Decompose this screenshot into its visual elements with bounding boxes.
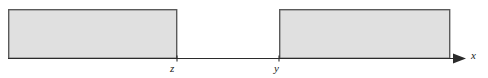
tick-label-z: z xyxy=(170,63,174,74)
math-figure: z y x xyxy=(0,0,488,78)
figure-canvas xyxy=(0,0,488,78)
axis-label-x: x xyxy=(471,50,476,61)
left-shaded-region xyxy=(9,10,177,59)
right-arrow-icon xyxy=(453,54,466,64)
right-shaded-region xyxy=(280,10,450,59)
tick-label-y: y xyxy=(274,63,279,74)
